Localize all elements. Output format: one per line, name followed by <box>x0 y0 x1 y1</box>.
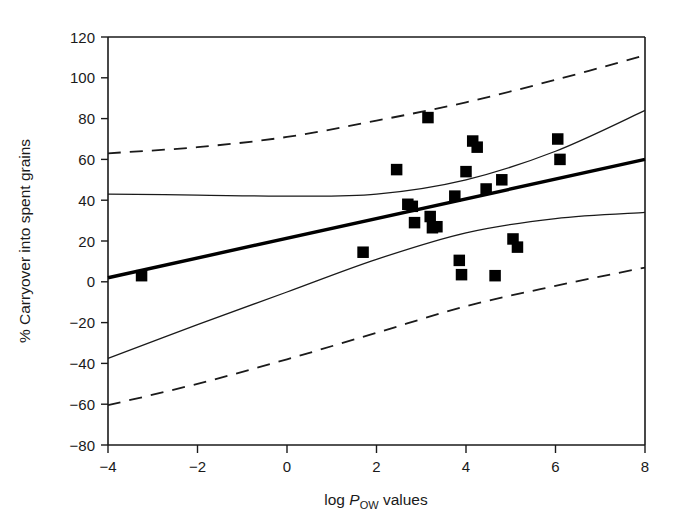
x-axis-title-group: log POW values <box>324 491 428 511</box>
data-point-marker <box>512 241 524 253</box>
data-point-marker <box>496 174 508 186</box>
data-point-marker <box>409 217 421 229</box>
data-point-marker <box>136 270 148 282</box>
y-tick-label: 100 <box>70 69 95 86</box>
data-point-marker <box>480 183 492 195</box>
y-axis-title-group: % Carryover into spent grains <box>16 139 33 343</box>
y-tick-label: −80 <box>70 437 95 454</box>
data-point-marker <box>407 201 419 213</box>
x-axis-title-suffix: values <box>379 491 428 508</box>
scatter-plot: % Carryover into spent grains −80−60−40−… <box>0 0 679 523</box>
data-point-marker <box>424 211 436 223</box>
data-point-marker <box>554 154 566 166</box>
x-tick-label: 8 <box>641 458 649 475</box>
y-tick-label: 40 <box>78 192 95 209</box>
x-tick-label: 0 <box>283 458 291 475</box>
prediction-band-lower <box>108 268 645 406</box>
y-tick-label: −60 <box>70 396 95 413</box>
x-tick-label: 2 <box>372 458 380 475</box>
confidence-band-lower <box>108 212 645 358</box>
y-tick-label: 0 <box>87 273 95 290</box>
confidence-band-upper <box>108 110 645 196</box>
figure-container: % Carryover into spent grains −80−60−40−… <box>0 0 679 523</box>
data-point-marker <box>449 190 461 202</box>
data-point-marker <box>454 255 466 267</box>
y-tick-label: 20 <box>78 233 95 250</box>
data-point-marker <box>357 246 369 258</box>
prediction-band-upper <box>108 55 645 153</box>
x-tick-label: 4 <box>462 458 470 475</box>
y-tick-label: −40 <box>70 355 95 372</box>
y-tick-label: 80 <box>78 110 95 127</box>
data-point-marker <box>422 112 434 124</box>
axis-lines <box>108 37 645 445</box>
x-axis-title-italic: P <box>349 491 360 508</box>
y-axis-title: % Carryover into spent grains <box>16 139 33 343</box>
data-point-marker <box>460 166 472 178</box>
x-tick-label: −2 <box>189 458 206 475</box>
x-axis-ticks: −4−202468 <box>99 445 649 475</box>
x-tick-label: −4 <box>99 458 116 475</box>
y-axis-ticks: −80−60−40−20020406080100120 <box>70 29 108 454</box>
x-axis-title-prefix: log <box>324 491 349 508</box>
x-axis-title: log POW values <box>324 491 428 511</box>
data-point-marker <box>471 141 483 153</box>
data-point-marker <box>489 270 501 282</box>
x-tick-label: 6 <box>551 458 559 475</box>
y-tick-label: 60 <box>78 151 95 168</box>
data-point-marker <box>456 269 468 281</box>
data-point-marker <box>431 221 443 233</box>
y-tick-label: 120 <box>70 29 95 46</box>
x-axis-title-subscript: OW <box>360 499 380 511</box>
y-tick-label: −20 <box>70 314 95 331</box>
regression-bands <box>108 55 645 405</box>
data-point-marker <box>391 164 403 176</box>
data-point-marker <box>552 133 564 145</box>
